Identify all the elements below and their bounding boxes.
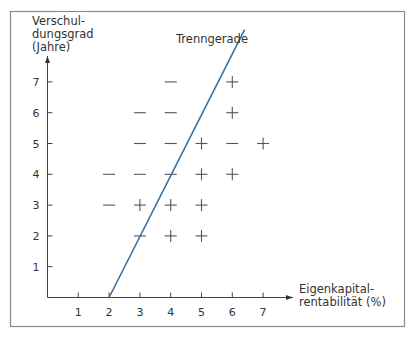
y-tick-label: 1 — [33, 261, 40, 274]
x-tick-label: 3 — [136, 306, 143, 319]
x-tick-label: 5 — [198, 306, 205, 319]
y-axis-title-line-3: (Jahre) — [32, 40, 70, 54]
y-tick-label: 4 — [33, 168, 40, 181]
data-markers — [103, 76, 269, 242]
x-tick-label: 4 — [167, 306, 174, 319]
x-tick-label: 2 — [106, 306, 113, 319]
y-tick-label: 7 — [33, 76, 40, 89]
x-tick-label: 1 — [75, 306, 82, 319]
chart-figure: Verschul- dungsgrad (Jahre) Eigenkapital… — [0, 0, 417, 340]
chart-frame — [11, 12, 405, 327]
x-tick-label: 7 — [260, 306, 267, 319]
y-tick-label: 2 — [33, 230, 40, 243]
y-tick-label: 5 — [33, 138, 40, 151]
x-axis-title-line-2: rentabilität (%) — [299, 295, 386, 309]
x-axis-title-line-1: Eigenkapital- — [299, 282, 374, 296]
separator-line — [109, 30, 245, 298]
y-axis-title: Verschul- dungsgrad (Jahre) — [32, 14, 94, 54]
y-tick-label: 3 — [33, 199, 40, 212]
y-axis-title-line-2: dungsgrad — [32, 27, 94, 41]
separator-line-label: Trenngerade — [175, 32, 248, 46]
x-axis-ticks: 1234567 — [75, 293, 267, 319]
y-tick-label: 6 — [33, 107, 40, 120]
y-axis-title-line-1: Verschul- — [32, 14, 85, 28]
x-tick-label: 6 — [229, 306, 236, 319]
y-axis-ticks: 1234567 — [33, 76, 53, 274]
x-axis-title: Eigenkapital- rentabilität (%) — [299, 282, 386, 309]
